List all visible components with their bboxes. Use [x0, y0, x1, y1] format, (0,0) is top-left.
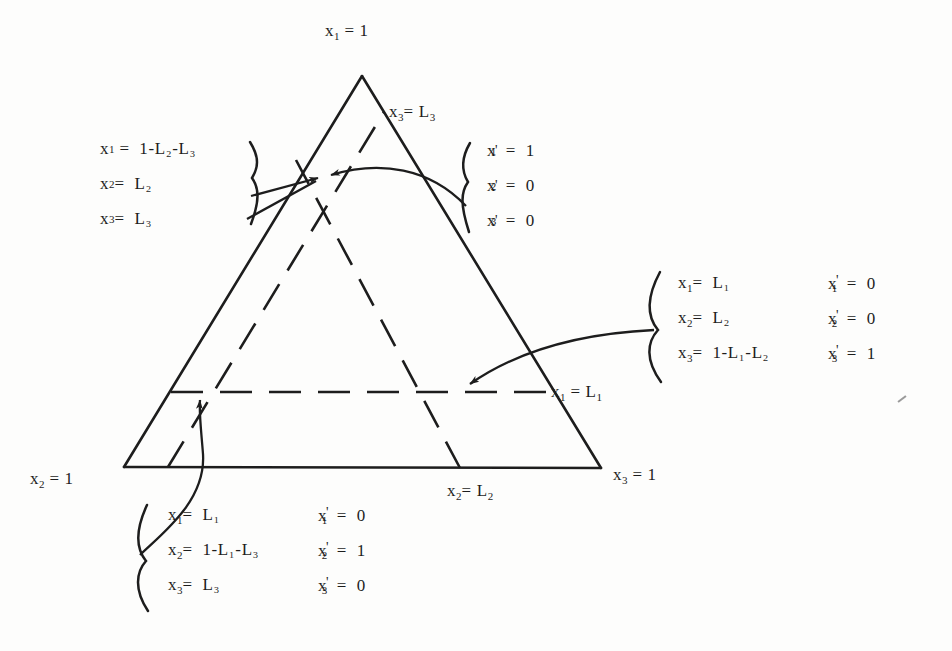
dashed-line-x2-L2: [296, 160, 460, 468]
triangle-bottom-edge: [124, 467, 601, 468]
arrows-group: [140, 168, 654, 555]
line-label-x2-L2: x2= L2: [447, 482, 493, 502]
brace-top-left: [250, 142, 258, 224]
coord-row: x2= L₂: [100, 166, 196, 201]
arrow-top-right: [331, 168, 466, 206]
coord-row: x1= L₁ x'1 = 0: [168, 498, 366, 533]
coord-block-top-right: x'1 = 1 x'2 = 0 x'3 = 0: [487, 133, 535, 238]
arrow-top-left: [251, 178, 318, 196]
coord-row: x'2 = 0: [487, 168, 535, 203]
coord-row: x3= 1-L₁-L₂ x'3 = 1: [678, 336, 876, 371]
coord-row: x'1 = 1: [487, 133, 535, 168]
arrow-right: [470, 330, 654, 384]
coord-block-right: x1= L₁ x'1 = 0 x2= L₂ x'2 = 0 x3= 1-L₁-L…: [678, 266, 876, 371]
line-label-x1-L1: x1 = L1: [551, 383, 602, 403]
brace-top-right: [463, 143, 471, 232]
vertex-label-apex: x1 = 1: [325, 22, 369, 42]
coord-row: x'3 = 0: [487, 203, 535, 238]
coord-row: x3= L₃: [100, 201, 196, 236]
coord-row: x1= L₁ x'1 = 0: [678, 266, 876, 301]
figure-page: x1 = 1 x2 = 1 x3 = 1 x3= L3 x1 = L1 x2= …: [0, 0, 952, 651]
coord-row: x2= 1-L₁-L₃ x'2 = 1: [168, 533, 366, 568]
line-label-x3-L3: x3= L3: [389, 103, 435, 123]
vertex-label-bottom-right: x3 = 1: [613, 466, 657, 486]
coord-row: x1 = 1-L₂-L₃: [100, 131, 196, 166]
coord-row: x3= L₃ x'3 = 0: [168, 568, 366, 603]
brace-bottom: [138, 505, 148, 611]
coord-block-top-left: x1 = 1-L₂-L₃ x2= L₂ x3= L₃: [100, 131, 196, 236]
triangle-right-edge: [362, 76, 601, 468]
vertex-label-bottom-left: x2 = 1: [30, 470, 74, 490]
coord-block-bottom: x1= L₁ x'1 = 0 x2= 1-L₁-L₃ x'2 = 1 x3= L…: [168, 498, 366, 603]
coord-row: x2= L₂ x'2 = 0: [678, 301, 876, 336]
brace-right: [649, 272, 661, 382]
